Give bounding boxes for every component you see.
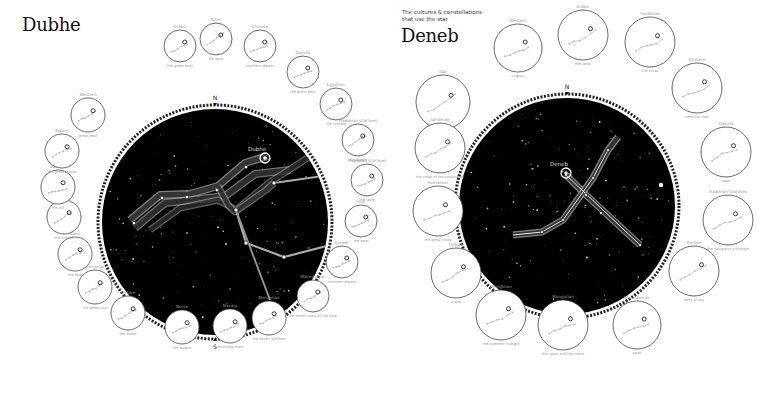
sky-disc: [455, 94, 679, 318]
constellation-name: the bear: [353, 239, 369, 243]
constellation-name: revolving male: [217, 345, 244, 349]
culture-name: Macedonian: [624, 295, 650, 300]
culture-name: Dakota: [719, 121, 734, 126]
culture-name: Norse: [176, 304, 189, 309]
compass-north: N: [565, 83, 570, 90]
constellation-name: the great bear: [290, 90, 316, 94]
constellation-name: northern dipper: [328, 280, 357, 284]
constellation-name: the cross of the crossroads: [416, 175, 465, 179]
culture-name: Arabic: [576, 4, 590, 9]
constellation-name: the elk: [52, 206, 65, 210]
bright-star: [659, 183, 663, 187]
culture-name: Inuit: [356, 199, 366, 204]
constellation-name: the wagon: [173, 346, 192, 350]
constellation-name: celestial ford: [685, 115, 708, 119]
constellation-name: swan: [632, 351, 641, 355]
constellation-name: the seven old men: [252, 337, 286, 341]
culture-name: Chinese: [252, 24, 269, 29]
culture-name: Macedonian: [300, 274, 326, 279]
highlight-star-label: Dubhe: [248, 146, 267, 152]
culture-name: Tukano: [54, 128, 70, 133]
culture-name: Korean: [335, 240, 350, 245]
constellation-name: the great cross: [424, 238, 451, 242]
compass-north: N: [213, 94, 218, 101]
culture-name: Korean: [687, 240, 702, 245]
constellation-name: the bear: [208, 57, 224, 61]
culture-constellation-card[interactable]: Dakotaswan: [701, 121, 751, 183]
culture-name: Western: [509, 18, 527, 23]
deneb-star-diagram: NSDenebTupitapirWesterncygnusArabicthe s…: [388, 0, 777, 393]
culture-constellation-card[interactable]: Romanianthe great cart: [78, 264, 112, 310]
culture-name: Ojibwe: [121, 290, 136, 295]
highlight-star-label: Deneb: [550, 161, 568, 167]
constellation-name: the great jaguar: [47, 170, 77, 174]
culture-name: Dakota: [296, 50, 311, 55]
culture-name: Hawaiian starlines: [709, 189, 747, 194]
culture-constellation-card[interactable]: Hawaiian starlinesthe ladle: [348, 158, 386, 202]
constellation-name: cygnus: [512, 74, 525, 78]
culture-name: Mongolian: [258, 295, 280, 300]
constellation-name: the seven stars of the bear: [289, 314, 338, 318]
constellation-name: the great cart: [83, 306, 108, 310]
culture-constellation-card[interactable]: Dakotathe great bear: [287, 50, 319, 94]
deneb-panel: The cultures & constellations that use t…: [388, 0, 777, 393]
culture-name: Romanian: [428, 180, 449, 185]
culture-constellation-card[interactable]: Chinesecelestial ford: [672, 57, 722, 119]
culture-name: Egyptian: [327, 82, 346, 87]
culture-name: Sardinian: [640, 11, 660, 16]
constellation-name: the fisher: [119, 332, 137, 336]
culture-name: Sardinian: [430, 117, 450, 122]
culture-constellation-card[interactable]: Westerngreat bear: [71, 92, 105, 138]
culture-constellation-card[interactable]: Inuitthe bear: [345, 199, 377, 243]
culture-name: Western: [79, 92, 97, 97]
culture-name: Ojibwe: [449, 242, 464, 247]
culture-name: Tupi: [438, 69, 447, 74]
constellation-name: swan: [721, 179, 730, 183]
constellation-name: ferry of sky: [684, 298, 705, 302]
dubhe-star-diagram: NSDubheArabicthe great bearAztecthe bear…: [0, 0, 390, 393]
constellation-name: northern dipper: [246, 64, 275, 68]
culture-constellation-card[interactable]: Sardinianthe cross of the crossroads: [415, 117, 465, 179]
constellation-name: crane: [451, 300, 462, 304]
dubhe-panel: Dubhe NSDubheArabicthe great bearAztecth…: [0, 0, 390, 393]
culture-name: Aztec: [210, 17, 222, 22]
culture-name: Chinese: [689, 57, 706, 62]
culture-constellation-card[interactable]: Arabicthe great bear: [164, 24, 196, 68]
culture-name: Hawaiian starlines: [339, 118, 377, 123]
culture-name: Mongolian: [490, 284, 512, 289]
constellation-name: the summer triangle: [483, 342, 521, 346]
constellation-name: the great bear: [167, 64, 193, 68]
constellation-name: the swan and the crane: [542, 352, 585, 356]
culture-constellation-card[interactable]: Sardinianthe cross: [625, 11, 675, 73]
constellation-name: the bow: [68, 273, 83, 277]
culture-constellation-card[interactable]: Hawaiian starlinesthe navigator's triang…: [703, 189, 753, 251]
culture-name: Hawaiian starlines: [348, 158, 386, 163]
culture-name: Mongolian: [552, 294, 574, 299]
culture-name: Arabic: [173, 24, 187, 29]
constellation-name: the navigator's triangle: [707, 247, 750, 251]
culture-constellation-card[interactable]: Aztecthe bear: [200, 17, 232, 61]
culture-constellation-card[interactable]: Chinesenorthern dipper: [244, 24, 276, 68]
culture-constellation-card[interactable]: Arabicthe swan: [558, 4, 608, 66]
culture-constellation-card[interactable]: Westerncygnus: [494, 18, 542, 78]
constellation-name: the swan: [575, 62, 591, 66]
constellation-name: the cross: [642, 69, 658, 73]
constellation-name: great bear: [79, 134, 98, 138]
culture-name: Navajo: [223, 303, 238, 308]
constellation-name: the chariot: [54, 236, 74, 240]
